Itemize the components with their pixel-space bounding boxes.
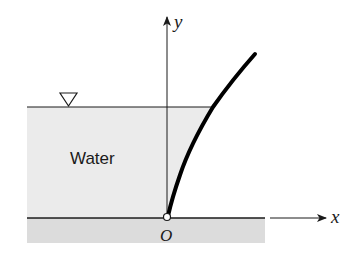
water-label: Water [70, 149, 115, 168]
x-axis-label: x [330, 206, 340, 227]
origin-point [164, 214, 171, 221]
dam-diagram: Water y x O [0, 0, 360, 258]
ground-region [27, 218, 265, 243]
y-axis-label: y [172, 11, 183, 32]
inverted-triangle-icon [60, 93, 77, 106]
origin-label: O [160, 226, 172, 245]
